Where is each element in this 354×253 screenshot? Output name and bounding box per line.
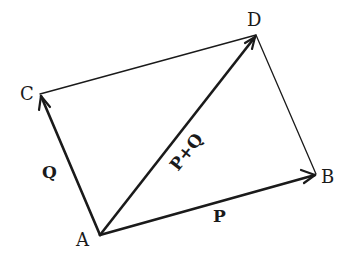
vector-label-p-plus-q: P+Q [165, 129, 207, 174]
vector-addition-diagram: A B C D Q P P+Q [0, 0, 354, 253]
point-label-d: D [247, 9, 261, 30]
vector-p-plus-q [100, 37, 255, 235]
point-label-c: C [20, 83, 34, 104]
vector-label-q: Q [42, 162, 57, 182]
vector-p [100, 170, 315, 235]
vector-label-p: P [213, 206, 226, 226]
edge-c-d [40, 35, 256, 94]
point-label-a: A [75, 229, 90, 250]
edge-d-b [256, 35, 316, 174]
point-label-b: B [321, 166, 334, 187]
